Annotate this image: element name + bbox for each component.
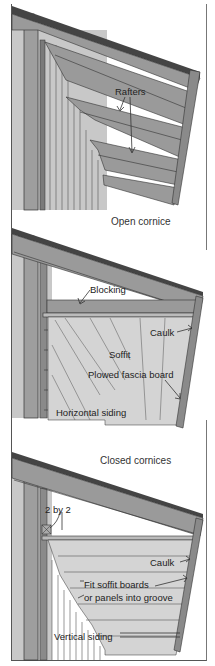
closed-cornice-vertical-drawing bbox=[12, 452, 203, 660]
closed-cornices-caption: Closed cornices bbox=[100, 455, 171, 466]
fit-soffit-boards-label: Fit soffit boards bbox=[84, 580, 149, 590]
caulk-label-2: Caulk bbox=[150, 558, 174, 568]
caulk-label-1: Caulk bbox=[150, 328, 174, 338]
vertical-siding-label: Vertical siding bbox=[54, 632, 113, 642]
plowed-fascia-board-label: Plowed fascia board bbox=[88, 370, 174, 380]
horizontal-siding-label: Horizontal siding bbox=[56, 408, 126, 418]
open-cornice-drawing bbox=[12, 6, 200, 210]
blocking-label: Blocking bbox=[90, 285, 126, 295]
soffit-label: Soffit bbox=[109, 350, 130, 360]
panels-into-groove-label: or panels into groove bbox=[84, 593, 173, 603]
cornice-illustration bbox=[0, 0, 215, 666]
open-cornice-caption: Open cornice bbox=[111, 216, 170, 227]
rafters-label: Rafters bbox=[115, 87, 146, 97]
two-by-two-label: 2 by 2 bbox=[45, 505, 71, 515]
closed-cornice-horizontal-drawing bbox=[12, 228, 207, 428]
